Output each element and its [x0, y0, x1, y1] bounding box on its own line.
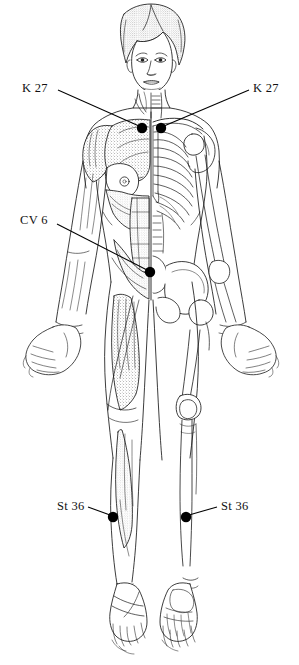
feet-group — [110, 583, 198, 654]
point-label-st36-right: St 36 — [221, 500, 249, 513]
point-marker-k27-left[interactable] — [137, 123, 147, 133]
skeleton-right — [153, 118, 215, 350]
point-marker-k27-right[interactable] — [156, 123, 166, 133]
acupuncture-chart: K 27K 27CV 6St 36St 36 — [0, 0, 299, 665]
leader-line-k27-right — [164, 90, 249, 126]
point-label-k27-right: K 27 — [253, 82, 279, 95]
point-marker-st36-left[interactable] — [108, 512, 118, 522]
leader-line-st36-right — [189, 507, 217, 515]
neck-group — [133, 90, 170, 118]
legs-group — [105, 282, 201, 588]
point-label-k27-left: K 27 — [22, 82, 48, 95]
point-marker-st36-right[interactable] — [181, 512, 191, 522]
leader-line-st36-left — [88, 507, 110, 515]
head-group — [120, 4, 184, 92]
hands-group — [23, 325, 279, 377]
point-label-cv6: CV 6 — [20, 214, 48, 227]
point-label-st36-left: St 36 — [57, 500, 85, 513]
point-marker-cv6[interactable] — [145, 267, 155, 277]
anatomical-figure — [0, 0, 299, 665]
